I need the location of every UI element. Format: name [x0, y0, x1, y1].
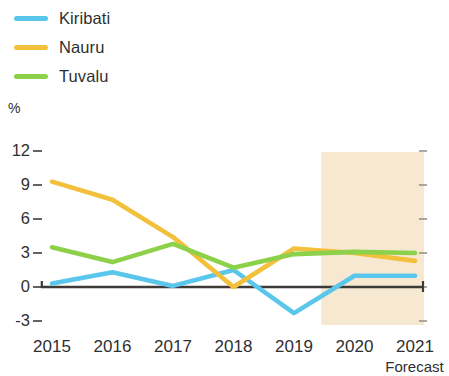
x-axis-tick-label: 2015: [24, 338, 80, 355]
y-axis-tick-label: 12: [0, 142, 30, 159]
forecast-band: [321, 152, 424, 325]
x-axis-tick-label: 2019: [266, 338, 322, 355]
x-axis-tick-label: 2021: [387, 338, 443, 355]
y-axis-tick-label: 6: [0, 210, 30, 227]
y-axis-tick-label: 9: [0, 176, 30, 193]
x-axis-tick-label: 2017: [145, 338, 201, 355]
forecast-caption: Forecast: [360, 358, 449, 375]
forecast-shaded-region: [321, 152, 424, 325]
y-axis-tick-marks: [33, 151, 42, 321]
y-axis-tick-label: 3: [0, 244, 30, 261]
x-axis-tick-label: 2018: [206, 338, 262, 355]
x-axis-tick-label: 2016: [85, 338, 141, 355]
x-axis-tick-label: 2020: [327, 338, 383, 355]
y-axis-tick-label: 0: [0, 278, 30, 295]
y-axis-tick-label: -3: [0, 312, 30, 329]
